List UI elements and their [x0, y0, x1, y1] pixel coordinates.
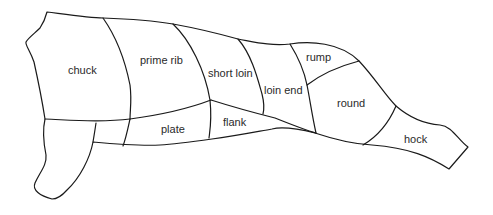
label-prime-rib: prime rib	[140, 54, 183, 66]
divider-chuck-primerib	[103, 18, 131, 119]
label-chuck: chuck	[68, 64, 97, 76]
label-short-loin: short loin	[208, 67, 253, 79]
label-rump: rump	[306, 51, 331, 63]
label-flank: flank	[223, 116, 247, 128]
label-plate: plate	[161, 123, 185, 135]
beef-cuts-diagram: chuck prime rib short loin loin end rump…	[0, 0, 493, 215]
divider-chuck-bottom	[45, 100, 211, 121]
label-loin-end: loin end	[264, 84, 303, 96]
carcass-outline	[26, 12, 468, 199]
divider-primerib-shortloin	[173, 24, 211, 138]
label-round: round	[337, 97, 365, 109]
divider-rump-round	[307, 61, 359, 85]
divider-primerib-plate	[123, 119, 130, 146]
divider-shank	[93, 123, 96, 142]
divider-round-hock	[363, 106, 396, 145]
label-hock: hock	[404, 133, 428, 145]
